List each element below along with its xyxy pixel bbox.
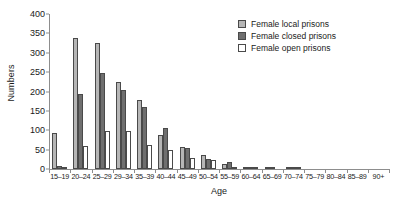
x-axis-tick-mark — [325, 169, 326, 173]
bar — [126, 131, 131, 169]
bar-group — [70, 14, 91, 169]
x-axis-tick-mark — [240, 169, 241, 173]
bar-group — [92, 14, 113, 169]
bar — [147, 145, 152, 169]
x-axis-tick-label: 45–49 — [178, 172, 197, 181]
bar-group — [347, 14, 368, 169]
x-axis-tick-label: 90+ — [373, 172, 385, 181]
x-axis-tick-label: 35–39 — [135, 172, 154, 181]
x-axis-tick-label: 75–79 — [305, 172, 324, 181]
legend-item: Female open prisons — [238, 42, 336, 54]
x-axis-tick-mark — [304, 169, 305, 173]
x-axis-tick-label: 25–29 — [93, 172, 112, 181]
legend-item: Female closed prisons — [238, 30, 336, 42]
bar — [296, 167, 301, 169]
x-axis-tick-mark — [368, 169, 369, 173]
chart-legend: Female local prisonsFemale closed prison… — [238, 18, 336, 54]
legend-item: Female local prisons — [238, 18, 336, 30]
x-axis-tick-label: 70–74 — [284, 172, 303, 181]
bar — [253, 167, 258, 169]
bar — [62, 167, 67, 169]
x-axis-tick-label: 65–69 — [263, 172, 282, 181]
x-axis-tick-label: 20–24 — [71, 172, 90, 181]
x-axis-tick-mark — [134, 169, 135, 173]
x-axis-tick-mark — [198, 169, 199, 173]
bar-group — [177, 14, 198, 169]
x-axis-tick-mark — [155, 169, 156, 173]
bar — [105, 131, 110, 169]
legend-label: Female local prisons — [251, 19, 329, 29]
x-axis-tick-label: 50–54 — [199, 172, 218, 181]
legend-label: Female open prisons — [251, 43, 330, 53]
x-axis-tick-mark — [177, 169, 178, 173]
bar-group — [113, 14, 134, 169]
bar — [52, 133, 57, 169]
legend-label: Female closed prisons — [251, 31, 336, 41]
plot-area: 050100150200250300350400 — [49, 14, 389, 169]
bar — [190, 158, 195, 169]
x-axis-tick-label: 80–84 — [326, 172, 345, 181]
x-axis-tick-label: 29–34 — [114, 172, 133, 181]
x-axis-tick-mark — [70, 169, 71, 173]
x-axis-tick-mark — [262, 169, 263, 173]
bar — [270, 167, 275, 169]
bar-group — [49, 14, 70, 169]
bar — [83, 146, 88, 169]
x-axis-tick-label: 60–64 — [241, 172, 260, 181]
x-axis-tick-mark — [113, 169, 114, 173]
bar — [211, 160, 216, 169]
x-axis-tick-mark — [92, 169, 93, 173]
legend-swatch-icon — [238, 20, 246, 28]
bar-group — [368, 14, 389, 169]
y-axis-title: Numbers — [6, 48, 16, 118]
x-axis-tick-label: 15–19 — [50, 172, 69, 181]
bar — [232, 167, 237, 169]
x-axis-tick-label: 85–89 — [348, 172, 367, 181]
x-axis-tick-mark — [283, 169, 284, 173]
legend-swatch-icon — [238, 32, 246, 40]
bar-chart: Numbers 050100150200250300350400 15–1920… — [0, 0, 401, 212]
x-axis-title: Age — [49, 186, 389, 196]
bar — [168, 150, 173, 169]
bar-group — [155, 14, 176, 169]
x-axis-tick-mark — [49, 169, 50, 173]
x-axis-tick-mark — [347, 169, 348, 173]
bar-group — [198, 14, 219, 169]
legend-swatch-icon — [238, 44, 246, 52]
x-axis-tick-label: 40–44 — [156, 172, 175, 181]
x-axis-tick-labels: 15–1920–2425–2929–3435–3940–4445–4950–54… — [49, 172, 389, 184]
x-axis-tick-mark — [389, 169, 390, 173]
x-axis-tick-label: 55–59 — [220, 172, 239, 181]
bar-group — [134, 14, 155, 169]
x-axis-tick-mark — [219, 169, 220, 173]
